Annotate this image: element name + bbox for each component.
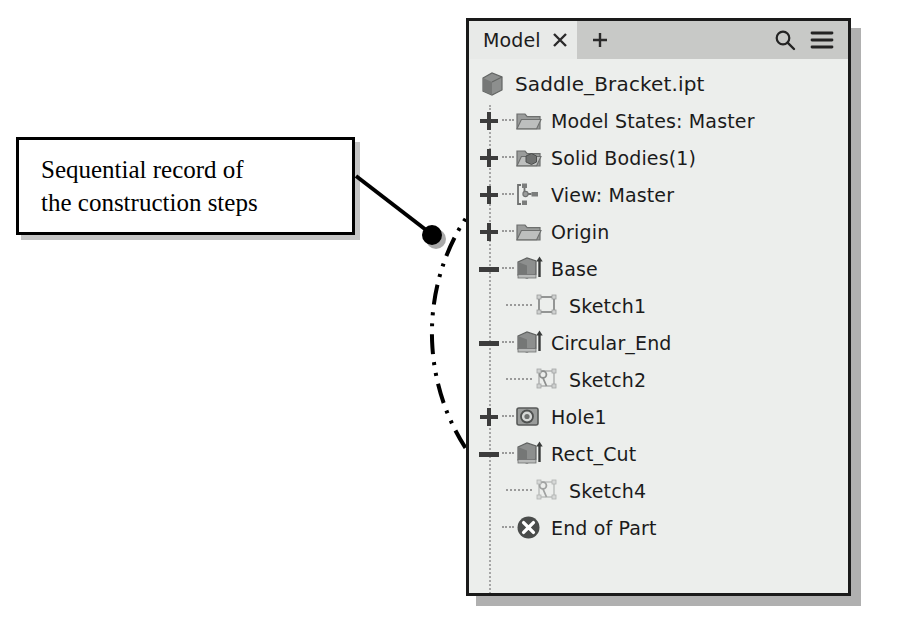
- model-tree: Saddle_Bracket.ipt Model States: Master: [469, 59, 848, 596]
- tree-connector: [502, 193, 514, 196]
- tree-item-label: Solid Bodies(1): [551, 147, 696, 169]
- tree-item-label: View: Master: [551, 184, 674, 206]
- tree-item-label: End of Part: [551, 517, 657, 539]
- folder-icon: [515, 107, 542, 134]
- tree-connector: [502, 341, 514, 344]
- expander-minus-icon[interactable]: [477, 442, 501, 466]
- tree-item-solid-bodies[interactable]: Solid Bodies(1): [469, 139, 848, 176]
- tree-item-label: Sketch2: [569, 369, 646, 391]
- tree-connector: [506, 489, 532, 492]
- plus-icon[interactable]: [577, 21, 623, 59]
- callout-line-2: the construction steps: [41, 186, 352, 219]
- sketch-arc-icon: [533, 366, 560, 393]
- tree-item-label: Sketch4: [569, 480, 646, 502]
- tree-item-label: Rect_Cut: [551, 443, 636, 465]
- panel-toolbar: [774, 21, 848, 59]
- tree-connector: [502, 119, 514, 122]
- tree-item-label: Hole1: [551, 406, 607, 428]
- tree-item-model-states[interactable]: Model States: Master: [469, 102, 848, 139]
- sketch-square-icon: [533, 292, 560, 319]
- hole-icon: [515, 403, 542, 430]
- tree-root-item[interactable]: Saddle_Bracket.ipt: [469, 65, 848, 102]
- tree-connector: [506, 378, 532, 381]
- expander-plus-icon[interactable]: [477, 146, 501, 170]
- tree-item-sketch1[interactable]: Sketch1: [469, 287, 848, 324]
- expander-plus-icon[interactable]: [477, 183, 501, 207]
- tree-item-base[interactable]: Base: [469, 250, 848, 287]
- panel-tab-bar: Model: [469, 21, 848, 59]
- expander-plus-icon[interactable]: [477, 405, 501, 429]
- tree-root-label: Saddle_Bracket.ipt: [515, 72, 705, 96]
- tab-model[interactable]: Model: [469, 21, 577, 59]
- tab-bar-spacer: [623, 21, 774, 59]
- tree-connector: [502, 267, 514, 270]
- tree-connector: [502, 230, 514, 233]
- extrude-icon: [515, 329, 542, 356]
- part-cube-icon: [479, 70, 506, 97]
- expander-minus-icon[interactable]: [477, 257, 501, 281]
- tree-item-label: Circular_End: [551, 332, 672, 354]
- expander-minus-icon[interactable]: [477, 331, 501, 355]
- search-icon[interactable]: [774, 29, 796, 51]
- expander-plus-icon[interactable]: [477, 109, 501, 133]
- callout-box: Sequential record of the construction st…: [16, 137, 355, 235]
- tree-item-label: Sketch1: [569, 295, 646, 317]
- end-of-part-icon: [515, 514, 542, 541]
- tree-item-view[interactable]: View: Master: [469, 176, 848, 213]
- view-icon: [515, 181, 542, 208]
- model-browser-panel: Model: [466, 18, 851, 596]
- extrude-icon: [515, 440, 542, 467]
- tree-item-circular-end[interactable]: Circular_End: [469, 324, 848, 361]
- close-icon[interactable]: [552, 32, 568, 48]
- tree-item-label: Base: [551, 258, 598, 280]
- tree-item-hole1[interactable]: Hole1: [469, 398, 848, 435]
- tree-item-label: Origin: [551, 221, 609, 243]
- expander-none: [477, 516, 501, 540]
- tree-connector: [506, 304, 532, 307]
- callout-leader-line: [356, 176, 430, 233]
- tree-item-label: Model States: Master: [551, 110, 755, 132]
- tree-item-rect-cut[interactable]: Rect_Cut: [469, 435, 848, 472]
- tree-connector: [502, 526, 514, 529]
- extrude-icon: [515, 255, 542, 282]
- tree-connector: [502, 415, 514, 418]
- sketch-arc-icon: [533, 477, 560, 504]
- tree-item-origin[interactable]: Origin: [469, 213, 848, 250]
- tree-connector: [502, 452, 514, 455]
- tree-item-end-of-part[interactable]: End of Part: [469, 509, 848, 546]
- hamburger-menu-icon[interactable]: [810, 30, 834, 50]
- tab-model-label: Model: [483, 29, 541, 51]
- tree-item-sketch4[interactable]: Sketch4: [469, 472, 848, 509]
- folder-solid-icon: [515, 144, 542, 171]
- leader-endpoint-dot: [422, 225, 442, 245]
- tree-connector: [502, 156, 514, 159]
- expander-plus-icon[interactable]: [477, 220, 501, 244]
- folder-icon: [515, 218, 542, 245]
- tree-item-sketch2[interactable]: Sketch2: [469, 361, 848, 398]
- leader-endpoint-dot-shadow: [426, 229, 446, 249]
- callout-line-1: Sequential record of: [41, 153, 352, 186]
